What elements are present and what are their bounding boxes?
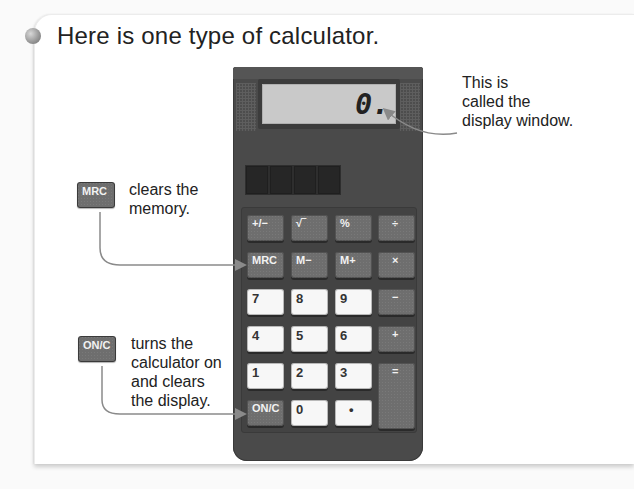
key-mrc[interactable]: MRC [247, 252, 284, 278]
callout-line: This is [462, 73, 573, 92]
key-square-root[interactable]: √‾ [291, 215, 328, 241]
page-heading: Here is one type of calculator. [57, 22, 379, 50]
calculator-top-band [233, 67, 423, 79]
key-plus-minus[interactable]: +/− [247, 215, 284, 241]
key-4[interactable]: 4 [247, 326, 284, 352]
key-decimal[interactable]: • [335, 400, 372, 426]
callout-line: the display. [131, 391, 222, 410]
onc-callout-text: turns the calculator on and clears the d… [131, 334, 222, 410]
speaker-grille-right [400, 83, 420, 131]
solar-cell [294, 166, 316, 194]
speaker-grille-left [236, 83, 256, 131]
bullet-icon [25, 28, 41, 44]
calculator: 0. +/− √‾ % ÷ MRC M− M+ × 7 8 9 − 4 5 6 … [233, 67, 423, 461]
callout-line: turns the [131, 334, 222, 353]
mrc-callout-key: MRC [77, 182, 115, 208]
key-on-clear[interactable]: ON/C [247, 400, 284, 426]
key-3[interactable]: 3 [335, 363, 372, 389]
display-value: 0. [355, 88, 389, 121]
solar-cell [270, 166, 292, 194]
solar-cell [318, 166, 340, 194]
callout-line: called the [462, 92, 573, 111]
key-5[interactable]: 5 [291, 326, 328, 352]
key-subtract[interactable]: − [378, 289, 415, 315]
key-6[interactable]: 6 [335, 326, 372, 352]
onc-callout-key: ON/C [78, 336, 116, 362]
key-9[interactable]: 9 [335, 289, 372, 315]
key-7[interactable]: 7 [247, 289, 284, 315]
callout-line: display window. [462, 111, 573, 130]
solar-cell [246, 166, 268, 194]
key-1[interactable]: 1 [247, 363, 284, 389]
key-percent[interactable]: % [335, 215, 372, 241]
key-0[interactable]: 0 [291, 400, 328, 426]
key-divide[interactable]: ÷ [378, 215, 415, 241]
key-multiply[interactable]: × [378, 252, 415, 278]
key-m-plus[interactable]: M+ [335, 252, 372, 278]
callout-line: calculator on [131, 353, 222, 372]
solar-panel [245, 165, 341, 195]
callout-line: clears the [129, 180, 198, 199]
key-add[interactable]: + [378, 326, 415, 352]
mrc-callout-text: clears the memory. [129, 180, 198, 218]
key-2[interactable]: 2 [291, 363, 328, 389]
key-equals[interactable]: = [378, 363, 415, 429]
key-m-minus[interactable]: M− [291, 252, 328, 278]
key-8[interactable]: 8 [291, 289, 328, 315]
callout-line: and clears [131, 372, 222, 391]
callout-line: memory. [129, 199, 198, 218]
display-window: 0. [262, 84, 396, 124]
display-callout: This is called the display window. [462, 73, 573, 130]
